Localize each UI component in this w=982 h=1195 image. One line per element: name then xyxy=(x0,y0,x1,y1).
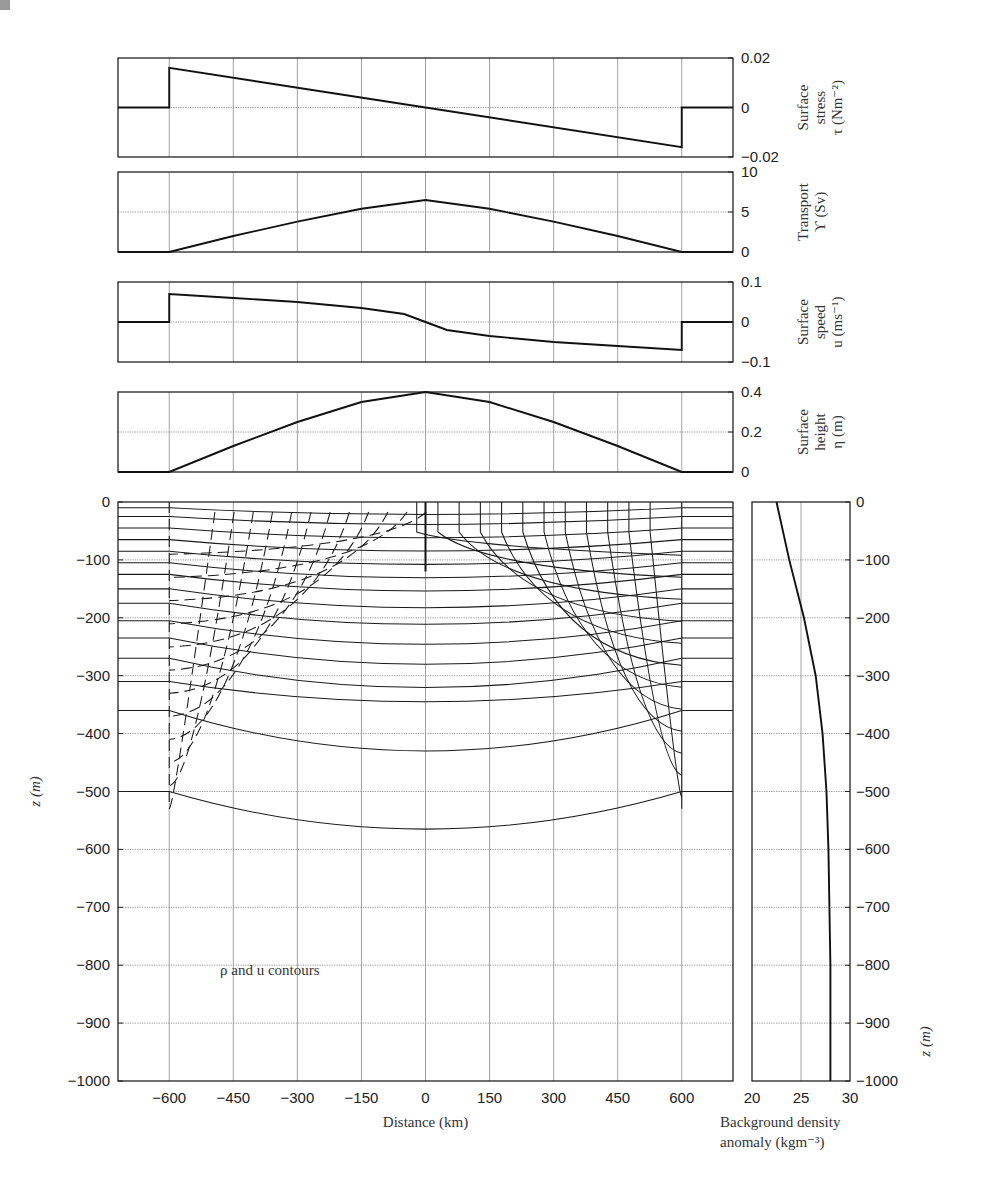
y-tick-label: −400 xyxy=(76,725,110,742)
x-axis-label: Distance (km) xyxy=(383,1114,468,1131)
surface-height-panel: 0.40.20Surfaceheightη (m) xyxy=(118,383,846,480)
y-tick-label: −100 xyxy=(76,551,110,568)
y-tick-label: −700 xyxy=(856,898,890,915)
x-tick-label: −150 xyxy=(345,1089,379,1106)
y-tick-label: −500 xyxy=(76,783,110,800)
contour-panel: 0−100−200−300−400−500−600−700−800−900−10… xyxy=(27,493,733,1131)
x-axis-label: Background density xyxy=(720,1114,841,1130)
y-tick-label: −900 xyxy=(76,1014,110,1031)
y-tick-label: 0 xyxy=(856,493,864,510)
x-tick-label: 25 xyxy=(793,1089,810,1106)
y-tick-label: 0 xyxy=(102,493,110,510)
x-tick-label: 0 xyxy=(421,1089,429,1106)
x-tick-label: −600 xyxy=(152,1089,186,1106)
y-axis-label: z (m) xyxy=(27,776,44,807)
y-tick-label: −200 xyxy=(856,609,890,626)
y-tick-label: 0 xyxy=(741,99,749,116)
x-tick-label: 600 xyxy=(669,1089,694,1106)
x-tick-label: 300 xyxy=(541,1089,566,1106)
y-tick-label: −300 xyxy=(856,667,890,684)
y-tick-label: −500 xyxy=(856,783,890,800)
y-tick-label: 0.02 xyxy=(741,49,770,66)
y-tick-label: −900 xyxy=(856,1014,890,1031)
x-tick-label: −300 xyxy=(280,1089,314,1106)
x-tick-label: −450 xyxy=(216,1089,250,1106)
y-tick-label: 0.4 xyxy=(741,383,762,400)
y-tick-label: −0.1 xyxy=(741,353,771,370)
transport-panel: 1050Transportϒ (Sv) xyxy=(118,163,829,260)
x-tick-label: 150 xyxy=(477,1089,502,1106)
y-tick-label: −300 xyxy=(76,667,110,684)
y-tick-label: 0.2 xyxy=(741,423,762,440)
y-axis-label: Surfaceheightη (m) xyxy=(795,409,846,455)
y-axis-label: Transportϒ (Sv) xyxy=(795,182,829,241)
y-tick-label: 0 xyxy=(741,313,749,330)
y-tick-label: −600 xyxy=(76,840,110,857)
x-axis-label: anomaly (kgm⁻³) xyxy=(720,1134,825,1151)
y-tick-label: 10 xyxy=(741,163,758,180)
y-axis-label: Surfacespeedu (ms⁻¹) xyxy=(795,296,846,347)
y-tick-label: 0 xyxy=(741,243,749,260)
y-tick-label: −700 xyxy=(76,898,110,915)
figure: 0.020−0.02Surfacestressτ (Nm⁻²)1050Trans… xyxy=(0,0,982,1195)
background-density-panel: 0−100−200−300−400−500−600−700−800−900−10… xyxy=(720,493,934,1151)
contour-annotation: ρ and u contours xyxy=(220,962,320,978)
surface-stress-panel: 0.020−0.02Surfacestressτ (Nm⁻²) xyxy=(118,49,846,165)
y-tick-label: 0.1 xyxy=(741,273,762,290)
y-tick-label: −200 xyxy=(76,609,110,626)
y-tick-label: −600 xyxy=(856,840,890,857)
y-tick-label: 0 xyxy=(741,463,749,480)
y-axis-label: Surfacestressτ (Nm⁻²) xyxy=(795,80,846,135)
x-tick-label: 30 xyxy=(842,1089,859,1106)
surface-speed-panel: 0.10−0.1Surfacespeedu (ms⁻¹) xyxy=(118,273,846,370)
x-tick-label: 450 xyxy=(605,1089,630,1106)
y-tick-label: −400 xyxy=(856,725,890,742)
y-tick-label: −800 xyxy=(76,956,110,973)
y-tick-label: −1000 xyxy=(68,1072,110,1089)
y-tick-label: −100 xyxy=(856,551,890,568)
y-axis-label: z (m) xyxy=(917,1026,934,1057)
y-tick-label: −800 xyxy=(856,956,890,973)
x-tick-label: 20 xyxy=(744,1089,761,1106)
y-tick-label: −1000 xyxy=(856,1072,898,1089)
y-tick-label: 5 xyxy=(741,203,749,220)
